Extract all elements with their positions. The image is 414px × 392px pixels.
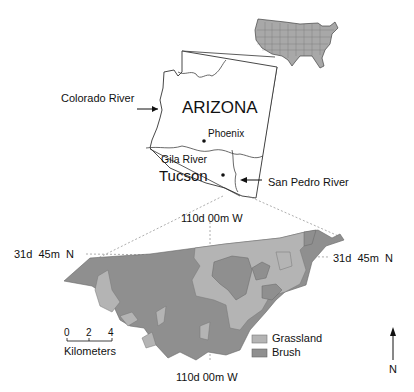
scale-tick-0: 0 xyxy=(64,328,70,338)
legend-swatch-grassland xyxy=(252,335,267,343)
san-pedro-river-label: San Pedro River xyxy=(268,177,349,188)
us-inset-map xyxy=(255,19,338,68)
tucson-label: Tucson xyxy=(159,168,208,183)
left-latitude-label: 31d 45m N xyxy=(14,249,74,260)
state-label: ARIZONA xyxy=(182,99,258,116)
scale-tick-4: 4 xyxy=(108,328,114,338)
legend-swatch-brush xyxy=(252,349,267,357)
map-canvas xyxy=(0,0,414,392)
legend-label-brush: Brush xyxy=(272,347,301,358)
north-arrow-icon xyxy=(390,327,396,336)
scale-tick-2: 2 xyxy=(86,328,92,338)
right-latitude-label: 31d 45m N xyxy=(333,253,393,264)
legend-label-grassland: Grassland xyxy=(272,333,322,344)
gila-river-label: Gila River xyxy=(161,154,207,165)
bottom-longitude-label: 110d 00m W xyxy=(176,372,238,383)
north-label: N xyxy=(389,364,397,375)
colorado-river-label: Colorado River xyxy=(61,93,134,104)
top-longitude-label: 110d 00m W xyxy=(181,213,243,224)
scale-unit-label: Kilometers xyxy=(64,346,116,357)
phoenix-label: Phoenix xyxy=(208,129,244,139)
